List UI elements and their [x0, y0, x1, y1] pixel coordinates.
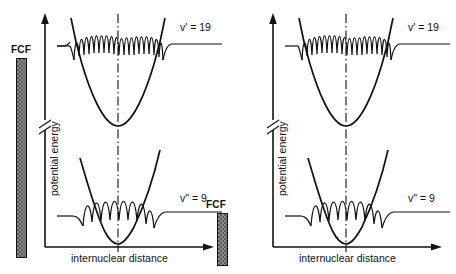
lower-wavefn-left-turning-right [301, 216, 311, 226]
fcf-label-right: FCF [206, 199, 226, 210]
lower-potential-curve-right [308, 150, 388, 244]
lower-wavefn-right-turning-right [382, 212, 394, 228]
x-axis-right [273, 243, 442, 250]
upper-wavefn-left-turning-right [298, 46, 302, 60]
lower-potential-curve-left [80, 150, 160, 244]
franck-condon-figure: FCF potential energy internuclear distan… [0, 0, 456, 274]
panel-left: FCF potential energy internuclear distan… [0, 0, 228, 274]
y-axis-right [267, 13, 279, 247]
panel-right: FCF potential energy internuclear distan… [228, 0, 456, 274]
y-axis-left [39, 13, 51, 247]
x-axis-left [45, 243, 214, 250]
panel-left-drawing [0, 0, 228, 274]
fcf-bar-right [217, 213, 228, 266]
panel-right-drawing [228, 0, 456, 274]
upper-wavefn-right-turning-left [163, 44, 172, 60]
lower-wavefn-right-turning-left [154, 212, 166, 228]
upper-wavefn-right-turning-right [391, 44, 400, 60]
lower-wavefn-left-turning-left [73, 216, 83, 226]
upper-wavefn-left-turning-left [70, 46, 74, 60]
